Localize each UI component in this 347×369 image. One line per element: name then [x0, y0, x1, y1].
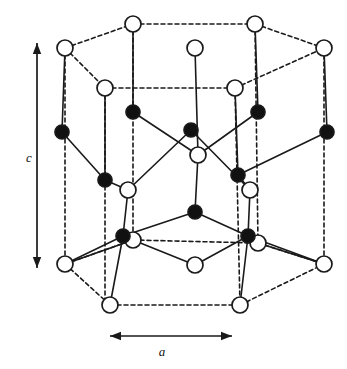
solid-bond	[198, 112, 258, 155]
filled-atom	[188, 205, 202, 219]
open-atom	[242, 182, 258, 198]
filled-atom	[241, 229, 255, 243]
arrow-head	[110, 332, 121, 340]
filled-atom	[231, 168, 245, 182]
dashed-bond	[65, 24, 133, 48]
open-atom	[57, 40, 73, 56]
solid-bond	[195, 236, 248, 265]
arrow-head	[33, 43, 41, 54]
arrow-head	[33, 257, 41, 268]
filled-atom	[98, 173, 112, 187]
solid-bond	[240, 236, 248, 305]
open-atom	[102, 297, 118, 313]
a-axis-label: a	[153, 344, 171, 360]
a-axis-arrow	[110, 332, 232, 340]
open-atom	[187, 40, 203, 56]
open-atom	[190, 147, 206, 163]
solid-bond	[128, 130, 191, 190]
filled-atom	[116, 229, 130, 243]
filled-atom	[126, 105, 140, 119]
solid-bond	[65, 236, 123, 264]
solid-bond	[195, 212, 248, 236]
open-atom	[316, 40, 332, 56]
dashed-bond	[240, 264, 324, 305]
filled-atom	[251, 105, 265, 119]
crystal-structure-svg	[0, 0, 347, 369]
c-axis-label: c	[20, 150, 38, 166]
dashed-bond	[65, 264, 110, 305]
open-atom	[187, 257, 203, 273]
open-atom	[232, 297, 248, 313]
solid-bond	[62, 132, 105, 180]
filled-atom	[184, 123, 198, 137]
arrow-head	[221, 332, 232, 340]
solid-bond	[258, 243, 324, 264]
atoms-group	[55, 16, 334, 313]
open-atom	[97, 80, 113, 96]
open-atom	[247, 16, 263, 32]
open-atom	[57, 256, 73, 272]
open-atom	[227, 80, 243, 96]
solid-bond	[238, 132, 327, 175]
dashed-bond	[235, 48, 324, 88]
solid-bond	[195, 48, 198, 155]
open-atom	[120, 182, 136, 198]
filled-atom	[55, 125, 69, 139]
open-atom	[125, 16, 141, 32]
open-atom	[316, 256, 332, 272]
filled-atom	[320, 125, 334, 139]
dashed-bond	[255, 24, 324, 48]
